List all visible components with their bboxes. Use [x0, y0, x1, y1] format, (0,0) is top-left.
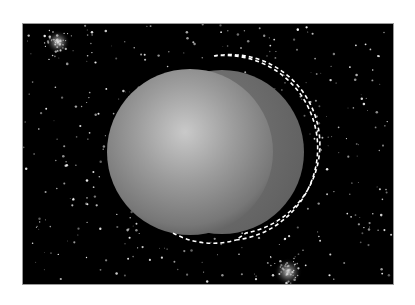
main-sphere — [107, 69, 273, 235]
star-cluster-icon — [46, 30, 70, 54]
image-frame — [22, 23, 394, 285]
space-scene — [23, 24, 393, 284]
